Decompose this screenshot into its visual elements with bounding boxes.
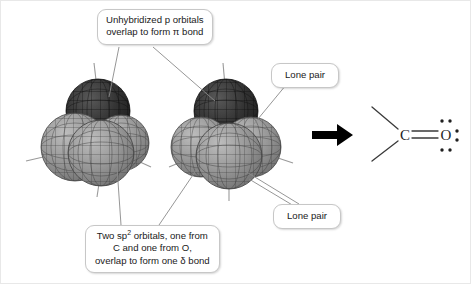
callout-sigma-line-1b: orbitals, one from: [131, 230, 208, 241]
orbital-diagram-artwork: C O: [1, 1, 471, 284]
callout-lone-pair-top: Lone pair: [271, 63, 339, 88]
oxygen-orbital-cluster: [165, 73, 289, 198]
callout-sigma-line-1a: Two sp: [97, 230, 127, 241]
lewis-oxygen-label: O: [441, 127, 452, 143]
lewis-structure-carbonyl: C O: [372, 107, 459, 161]
callout-lone-pair-bottom: Lone pair: [273, 204, 341, 229]
callout-lone-pair-top-label: Lone pair: [285, 69, 325, 81]
callout-unhybridized-p-orbitals: Unhybridized p orbitals overlap to form …: [97, 9, 213, 45]
callout-sigma-line-2: C and one from O,: [95, 242, 210, 254]
callout-pi-line-1: Unhybridized p orbitals: [106, 14, 204, 26]
callout-lone-pair-bottom-label: Lone pair: [287, 210, 327, 222]
callout-sp2-orbitals: Two sp2 orbitals, one from C and one fro…: [85, 225, 220, 273]
callout-sigma-line-3: overlap to form one δ bond: [95, 255, 210, 267]
figure-canvas: C O Unhybridized p orbitals overlap to f…: [0, 0, 471, 284]
transformation-arrow: [312, 124, 353, 146]
lewis-carbon-label: C: [400, 127, 410, 143]
carbon-orbital-cluster: [35, 73, 159, 195]
callout-sigma-line-1: Two sp2 orbitals, one from: [95, 230, 210, 242]
callout-pi-line-2: overlap to form π bond: [106, 26, 204, 38]
